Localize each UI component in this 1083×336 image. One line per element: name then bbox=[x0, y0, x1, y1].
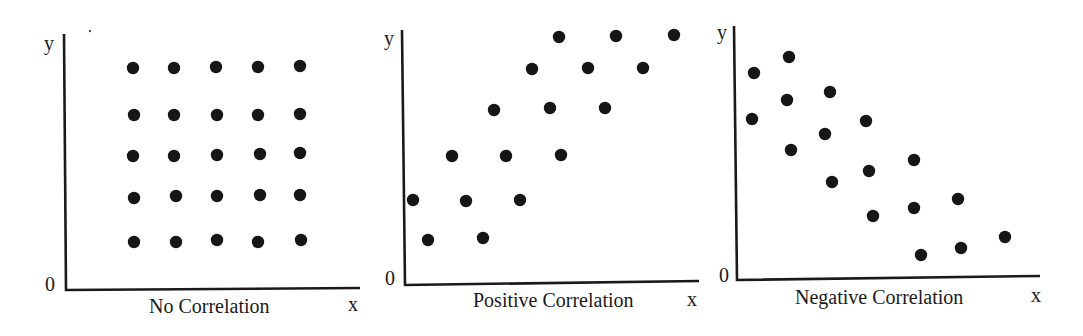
data-point bbox=[582, 62, 594, 74]
panel-positive-correlation: y 0 Positive Correlation x bbox=[384, 27, 699, 311]
y-axis-label: y bbox=[384, 27, 394, 50]
data-point bbox=[500, 150, 512, 162]
data-point bbox=[824, 86, 836, 98]
data-point bbox=[127, 150, 139, 162]
data-point bbox=[252, 236, 264, 248]
data-point bbox=[526, 63, 538, 75]
data-point bbox=[610, 30, 622, 42]
data-point bbox=[211, 149, 223, 161]
data-point bbox=[168, 109, 180, 121]
data-point bbox=[294, 189, 306, 201]
data-point bbox=[860, 115, 872, 127]
data-point bbox=[819, 128, 831, 140]
data-point bbox=[407, 194, 419, 206]
data-point bbox=[781, 94, 793, 106]
scatter-points-panel-3 bbox=[746, 51, 1011, 261]
panel-title: Negative Correlation bbox=[795, 286, 963, 309]
x-axis-label: x bbox=[687, 288, 697, 310]
data-point bbox=[915, 249, 927, 261]
data-point bbox=[955, 242, 967, 254]
data-point bbox=[555, 149, 567, 161]
data-point bbox=[446, 150, 458, 162]
origin-label: 0 bbox=[385, 267, 395, 289]
data-point bbox=[254, 189, 266, 201]
stray-mark bbox=[89, 30, 91, 32]
data-point bbox=[211, 234, 223, 246]
x-axis-label: x bbox=[1031, 284, 1041, 306]
data-point bbox=[553, 31, 565, 43]
data-point bbox=[908, 202, 920, 214]
axes-panel-1 bbox=[64, 34, 360, 290]
data-point bbox=[999, 231, 1011, 243]
data-point bbox=[128, 109, 140, 121]
data-point bbox=[128, 192, 140, 204]
data-point bbox=[170, 236, 182, 248]
data-point bbox=[867, 210, 879, 222]
data-point bbox=[952, 193, 964, 205]
origin-label: 0 bbox=[719, 264, 729, 286]
data-point bbox=[295, 234, 307, 246]
data-point bbox=[544, 102, 556, 114]
data-point bbox=[637, 62, 649, 74]
data-point bbox=[748, 67, 760, 79]
data-point bbox=[863, 165, 875, 177]
data-point bbox=[168, 62, 180, 74]
x-axis-label: x bbox=[348, 293, 358, 315]
data-point bbox=[477, 232, 489, 244]
data-point bbox=[210, 61, 222, 73]
data-point bbox=[294, 147, 306, 159]
data-point bbox=[783, 51, 795, 63]
data-point bbox=[211, 190, 223, 202]
data-point bbox=[599, 102, 611, 114]
y-axis-label: y bbox=[44, 32, 54, 55]
data-point bbox=[422, 234, 434, 246]
data-point bbox=[294, 108, 306, 120]
panel-title: No Correlation bbox=[149, 295, 270, 317]
data-point bbox=[460, 195, 472, 207]
data-point bbox=[252, 61, 264, 73]
data-point bbox=[294, 60, 306, 72]
panel-title: Positive Correlation bbox=[473, 289, 634, 311]
y-axis-label: y bbox=[717, 21, 727, 44]
scatter-points-panel-2 bbox=[407, 29, 680, 246]
panel-negative-correlation: y 0 Negative Correlation x bbox=[717, 21, 1041, 309]
data-point bbox=[668, 29, 680, 41]
data-point bbox=[746, 113, 758, 125]
data-point bbox=[128, 236, 140, 248]
data-point bbox=[488, 104, 500, 116]
panel-no-correlation: y 0 No Correlation x bbox=[44, 30, 360, 317]
data-point bbox=[127, 62, 139, 74]
data-point bbox=[826, 176, 838, 188]
data-point bbox=[785, 144, 797, 156]
scatter-points-panel-1 bbox=[127, 60, 307, 248]
data-point bbox=[168, 150, 180, 162]
data-point bbox=[211, 109, 223, 121]
data-point bbox=[908, 154, 920, 166]
axes-panel-3 bbox=[734, 26, 1040, 280]
correlation-figure: y 0 No Correlation x y 0 Positive Correl… bbox=[0, 0, 1083, 336]
data-point bbox=[514, 194, 526, 206]
data-point bbox=[252, 109, 264, 121]
data-point bbox=[170, 190, 182, 202]
origin-label: 0 bbox=[45, 273, 55, 295]
data-point bbox=[254, 148, 266, 160]
